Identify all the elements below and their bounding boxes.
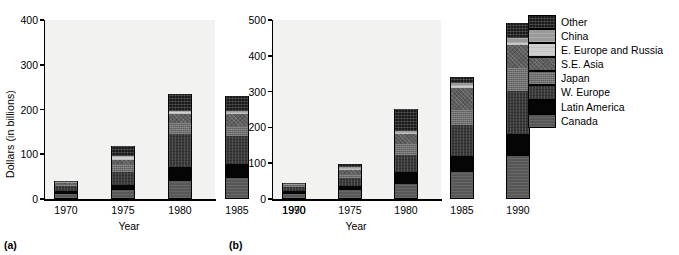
legend-swatch-weur-icon (528, 85, 556, 99)
bar-segment-japan (169, 123, 191, 134)
bar-segment-weur (339, 178, 361, 186)
legend-swatch-other-icon (528, 15, 556, 29)
x-tick-label-b-1975: 1975 (330, 204, 370, 216)
legend-label-eeur: E. Europe and Russia (561, 43, 663, 57)
y-tick-label-b-0: 0 (236, 194, 266, 204)
bar-segment-eeur (169, 112, 191, 114)
bar-b-1970[interactable] (282, 183, 306, 199)
panel-caption-a: (a) (4, 239, 17, 251)
bar-segment-weur (169, 134, 191, 166)
bar-a-1970[interactable] (54, 181, 78, 199)
bar-segment-eeur (339, 169, 361, 171)
bar-segment-china (169, 111, 191, 112)
panel-caption-b: (b) (229, 239, 242, 251)
x-axis-line-a (44, 199, 216, 201)
bar-segment-seasia (169, 114, 191, 123)
bar-segment-japan (395, 144, 417, 155)
legend-item-eeur[interactable]: E. Europe and Russia (528, 43, 673, 57)
bar-segment-seasia (507, 45, 529, 68)
figure-two-stacked-bar-charts: Dollars (in billions) 0100200300400 1970… (0, 0, 679, 255)
bar-segment-weur (451, 125, 473, 156)
legend-swatch-canada-icon (528, 114, 556, 128)
bar-segment-other (395, 109, 417, 131)
bar-segment-japan (112, 164, 134, 172)
y-tick-label-b-500: 500 (236, 15, 266, 25)
bar-segment-weur (55, 186, 77, 191)
legend-swatch-china-icon (528, 29, 556, 43)
y-tick-label-a-400: 400 (8, 15, 38, 25)
y-tick-label-a-100: 100 (8, 149, 38, 159)
bar-segment-china (112, 156, 134, 157)
bar-segment-japan (339, 174, 361, 178)
bar-a-1980[interactable] (168, 94, 192, 199)
y-tick-label-b-200: 200 (236, 122, 266, 132)
bar-segment-japan (507, 68, 529, 91)
legend-label-china: China (561, 29, 588, 43)
bar-segment-latam (451, 156, 473, 172)
bar-segment-latam (507, 134, 529, 157)
x-axis-label-b: Year (272, 220, 440, 232)
x-tick-label-a-1975: 1975 (103, 204, 143, 216)
bar-segment-china (451, 83, 473, 87)
x-axis-line-b (272, 199, 442, 201)
bar-segment-eeur (112, 157, 134, 159)
bar-segment-canada (507, 156, 529, 198)
bar-segment-other (112, 146, 134, 156)
bar-segment-seasia (451, 88, 473, 109)
y-tick-label-b-400: 400 (236, 51, 266, 61)
bar-b-1975[interactable] (338, 164, 362, 199)
y-tick-label-a-300: 300 (8, 60, 38, 70)
bar-segment-canada (451, 172, 473, 198)
legend-label-canada: Canada (561, 114, 598, 128)
legend-label-other: Other (561, 15, 587, 29)
legend-item-weur[interactable]: W. Europe (528, 85, 673, 99)
bar-segment-eeur (451, 86, 473, 88)
bar-segment-japan (55, 184, 77, 186)
chart-panel-a: Dollars (in billions) 0100200300400 1970… (0, 0, 232, 255)
bar-a-1975[interactable] (111, 146, 135, 199)
legend-item-japan[interactable]: Japan (528, 71, 673, 85)
legend-item-seasia[interactable]: S.E. Asia (528, 57, 673, 71)
bar-segment-eeur (507, 43, 529, 45)
bar-segment-canada (55, 194, 77, 198)
y-tick-label-a-200: 200 (8, 105, 38, 115)
bar-segment-latam (283, 191, 305, 195)
legend-label-japan: Japan (561, 71, 590, 85)
bar-segment-latam (55, 191, 77, 194)
bar-b-1985[interactable] (450, 77, 474, 199)
bar-b-1990[interactable] (506, 23, 530, 199)
chart-panel-b: Dollars (in billions) 0100200300400500 1… (225, 0, 450, 255)
legend-item-china[interactable]: China (528, 29, 673, 43)
bar-segment-canada (112, 190, 134, 198)
x-tick-label-a-1980: 1980 (160, 204, 200, 216)
x-tick-label-b-1985: 1985 (442, 204, 482, 216)
bar-segment-china (395, 131, 417, 133)
legend-label-weur: W. Europe (561, 85, 610, 99)
legend-item-latam[interactable]: Latin America (528, 100, 673, 114)
bar-b-1980[interactable] (394, 109, 418, 199)
x-tick-label-a-1970: 1970 (46, 204, 86, 216)
y-tick-label-b-300: 300 (236, 87, 266, 97)
y-tick-label-b-100: 100 (236, 158, 266, 168)
legend-item-canada[interactable]: Canada (528, 114, 673, 128)
bar-segment-other (451, 77, 473, 83)
x-tick-label-b-1970: 1970 (274, 204, 314, 216)
bar-segment-other (283, 183, 305, 184)
bar-segment-canada (169, 181, 191, 198)
bar-segment-canada (395, 184, 417, 198)
bar-segment-weur (283, 187, 305, 191)
bar-segment-canada (283, 194, 305, 198)
bar-segment-canada (339, 190, 361, 198)
legend-item-other[interactable]: Other (528, 15, 673, 29)
bar-segment-japan (451, 110, 473, 126)
bar-segment-seasia (112, 160, 134, 165)
bar-segment-weur (395, 155, 417, 172)
bar-segment-latam (112, 185, 134, 189)
bar-segment-seasia (339, 170, 361, 173)
bar-segment-japan (283, 185, 305, 186)
bar-segment-china (339, 167, 361, 168)
legend-swatch-seasia-icon (528, 57, 556, 71)
x-tick-label-b-1980: 1980 (386, 204, 426, 216)
bar-segment-eeur (395, 133, 417, 135)
legend: OtherChinaE. Europe and RussiaS.E. AsiaJ… (528, 15, 673, 128)
